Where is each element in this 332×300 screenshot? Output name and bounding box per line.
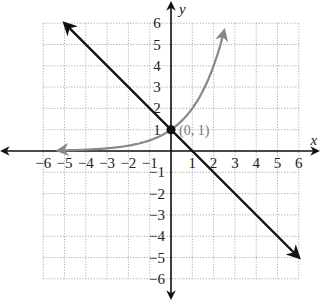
y-tick-label: 5 [153,37,161,53]
x-tick-label: 4 [252,155,260,171]
y-tick-label: −4 [149,228,165,244]
y-tick-label: −3 [149,207,165,223]
x-axis-label: x [310,132,318,148]
y-tick-label: 4 [153,58,161,74]
point-label: (0, 1) [179,123,210,139]
y-tick-label: 6 [153,15,161,31]
x-tick-label: −5 [57,155,73,171]
x-tick-label: −2 [120,155,136,171]
y-tick-label: 3 [153,79,161,95]
y-tick-label: −6 [149,271,165,287]
annotations: (0, 1) [167,123,210,139]
plot-series [58,23,299,257]
coordinate-graph: −6−5−4−3−2−1123456−6−5−4−3−2−1123456 (0,… [0,0,332,300]
x-tick-label: 3 [231,155,239,171]
y-tick-label: −1 [149,164,165,180]
x-tick-label: −4 [78,155,94,171]
y-tick-label: −5 [149,250,165,266]
y-axis-label: y [177,1,186,17]
linear-line [65,23,299,257]
x-tick-label: −3 [99,155,115,171]
x-tick-label: 1 [189,155,197,171]
point-marker [167,125,176,134]
x-tick-label: −6 [35,155,51,171]
x-tick-label: 6 [295,155,303,171]
x-tick-label: 5 [274,155,282,171]
y-tick-label: −2 [149,186,165,202]
